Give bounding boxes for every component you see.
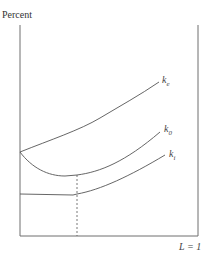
cost-of-capital-chart [0,0,213,257]
ke-label: ke [162,74,170,88]
k0-label: k0 [164,123,172,137]
k0-label-sub: 0 [168,129,172,137]
ki-label: ki [169,148,175,162]
ki-label-sub: i [173,154,175,162]
ki-curve [20,155,165,195]
ke-curve [20,82,159,152]
ke-label-sub: e [166,80,169,88]
x-axis-label: L = 1 [179,241,201,252]
y-axis-label: Percent [2,9,32,20]
